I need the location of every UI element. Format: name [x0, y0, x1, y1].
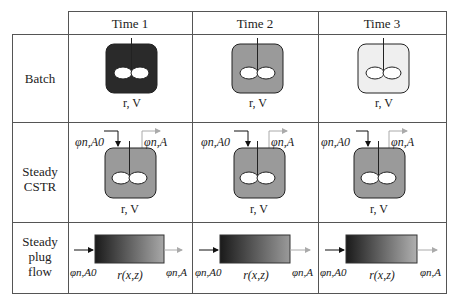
- pfr-inlet-label-time-1: φn,A0: [70, 266, 97, 278]
- batch-tank-time-1: [106, 38, 157, 93]
- batch-caption-time-3: r, V: [352, 96, 416, 111]
- cstr-inlet-label-time-3: φn,A0: [321, 135, 350, 150]
- pfr-outlet-label-time-2: φn,A: [292, 266, 313, 278]
- batch-tank-time-3: [358, 38, 409, 93]
- cstr-inlet-label-time-2: φn,A0: [201, 135, 230, 150]
- batch-tank-time-2: [232, 38, 283, 93]
- pfr-caption-time-3: r(x,z): [352, 268, 412, 283]
- pfr-caption-time-1: r(x,z): [100, 268, 160, 283]
- batch-caption-time-2: r, V: [226, 96, 290, 111]
- cstr-inlet-label-time-1: φn,A0: [75, 135, 104, 150]
- pfr-inlet-label-time-3: φn,A0: [320, 266, 347, 278]
- cstr-caption-time-3: r, V: [347, 202, 411, 217]
- cstr-caption-time-2: r, V: [227, 202, 291, 217]
- pfr-time-3: [325, 235, 437, 263]
- cstr-outlet-label-time-3: φn,A: [391, 135, 414, 150]
- cstr-outlet-label-time-1: φn,A: [144, 135, 167, 150]
- cstr-caption-time-1: r, V: [98, 202, 162, 217]
- batch-caption-time-1: r, V: [100, 96, 164, 111]
- pfr-outlet-label-time-1: φn,A: [166, 266, 187, 278]
- pfr-time-2: [199, 235, 310, 263]
- pfr-outlet-label-time-3: φn,A: [420, 266, 441, 278]
- pfr-caption-time-2: r(x,z): [226, 268, 286, 283]
- reactor-diagrams: [0, 0, 458, 302]
- cstr-outlet-label-time-2: φn,A: [271, 135, 294, 150]
- pfr-inlet-label-time-2: φn,A0: [195, 266, 222, 278]
- pfr-time-1: [74, 235, 182, 263]
